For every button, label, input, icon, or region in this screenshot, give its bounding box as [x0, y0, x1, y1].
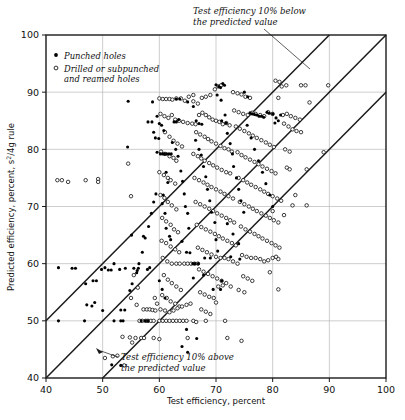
- data-point-punched: [144, 319, 147, 322]
- x-tick-label: 60: [153, 384, 165, 395]
- data-point-drilled: [170, 281, 174, 285]
- data-point-drilled: [192, 152, 196, 156]
- data-point-drilled: [223, 192, 227, 196]
- data-point-drilled: [172, 228, 176, 232]
- data-point-drilled: [171, 98, 175, 102]
- data-point-drilled: [167, 116, 171, 120]
- data-point-punched: [174, 148, 177, 151]
- data-point-drilled: [209, 312, 213, 316]
- data-point-punched: [271, 112, 274, 115]
- data-point-drilled: [202, 270, 206, 274]
- data-point-drilled: [260, 212, 264, 216]
- data-point-drilled: [142, 308, 146, 312]
- data-point-drilled: [185, 319, 189, 323]
- data-point-punched: [144, 236, 147, 239]
- data-point-punched: [243, 91, 246, 94]
- data-point-drilled: [168, 135, 172, 139]
- data-point-punched: [140, 319, 143, 322]
- data-point-drilled: [164, 241, 168, 245]
- data-point-punched: [235, 176, 238, 179]
- data-point-punched: [184, 205, 187, 208]
- data-point-drilled: [211, 164, 215, 168]
- data-point-drilled: [175, 285, 179, 289]
- data-point-drilled: [84, 178, 88, 182]
- data-point-drilled: [215, 212, 219, 216]
- data-point-punched: [197, 262, 200, 265]
- data-point-punched: [180, 240, 183, 243]
- data-point-drilled: [193, 176, 197, 180]
- legend-marker-punched-holes: [54, 53, 58, 57]
- data-point-punched: [110, 363, 113, 366]
- data-point-punched: [203, 256, 206, 259]
- data-point-drilled: [132, 273, 136, 277]
- data-point-drilled: [159, 112, 163, 116]
- data-point-drilled: [234, 244, 238, 248]
- y-tick-label: 90: [27, 87, 39, 98]
- data-point-drilled: [207, 295, 211, 299]
- data-point-punched: [246, 95, 249, 98]
- data-point-drilled: [230, 241, 234, 245]
- data-point-punched: [165, 171, 168, 174]
- data-point-drilled: [232, 109, 236, 113]
- data-point-drilled: [169, 245, 173, 249]
- data-point-punched: [163, 296, 166, 299]
- data-point-punched: [93, 301, 96, 304]
- data-point-drilled: [265, 167, 269, 171]
- data-point-drilled: [210, 253, 214, 257]
- data-point-drilled: [237, 110, 241, 114]
- data-point-drilled: [180, 145, 184, 149]
- x-tick-label: 90: [323, 384, 335, 395]
- data-point-drilled: [194, 200, 198, 204]
- data-point-drilled: [253, 160, 257, 164]
- data-point-drilled: [223, 146, 227, 150]
- data-point-drilled: [298, 118, 302, 122]
- data-point-drilled: [194, 130, 198, 134]
- data-point-drilled: [210, 185, 214, 189]
- data-point-punched: [91, 279, 94, 282]
- data-point-drilled: [227, 148, 231, 152]
- data-point-punched: [187, 227, 190, 230]
- data-point-punched: [197, 122, 200, 125]
- data-point-drilled: [288, 168, 292, 172]
- data-point-drilled: [213, 88, 217, 92]
- data-point-drilled: [219, 256, 223, 260]
- data-point-drilled: [96, 180, 100, 184]
- data-point-drilled: [159, 193, 163, 197]
- data-point-drilled: [160, 293, 164, 297]
- data-point-drilled: [164, 97, 168, 101]
- data-point-punched: [123, 308, 126, 311]
- data-point-punched: [237, 242, 240, 245]
- data-point-punched: [209, 256, 212, 259]
- data-point-drilled: [223, 319, 227, 323]
- data-point-drilled: [181, 319, 185, 323]
- data-point-punched: [268, 112, 271, 115]
- data-point-drilled: [209, 230, 213, 234]
- data-point-punched: [275, 116, 278, 119]
- data-point-drilled: [255, 209, 259, 213]
- data-point-drilled: [294, 193, 298, 197]
- data-point-drilled: [257, 234, 261, 238]
- data-point-punched: [158, 279, 161, 282]
- data-point-punched: [206, 188, 209, 191]
- data-point-drilled: [291, 128, 295, 132]
- data-point-drilled: [278, 80, 282, 84]
- data-point-drilled: [212, 296, 216, 300]
- data-point-punched: [150, 212, 153, 215]
- data-point-drilled: [206, 183, 210, 187]
- data-point-drilled: [159, 308, 163, 312]
- data-point-drilled: [262, 190, 266, 194]
- data-point-punched: [110, 268, 113, 271]
- data-point-drilled: [282, 213, 286, 217]
- data-point-punched: [229, 255, 232, 258]
- x-tick-label: 80: [267, 384, 279, 395]
- data-point-drilled: [192, 100, 196, 104]
- data-point-drilled: [223, 256, 227, 260]
- data-point-punched: [165, 227, 168, 230]
- data-point-drilled: [181, 120, 185, 124]
- data-point-drilled: [203, 293, 207, 297]
- data-point-punched: [216, 250, 219, 253]
- data-point-drilled: [285, 84, 289, 88]
- data-point-drilled: [214, 301, 218, 305]
- data-point-punched: [180, 345, 183, 348]
- data-point-punched: [154, 136, 157, 139]
